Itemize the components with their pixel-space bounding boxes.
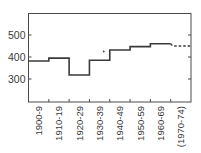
x-tick-label: 1910-19 (53, 106, 64, 141)
y-axis: 300400500 (8, 29, 191, 85)
x-tick-label: (1970-74) (175, 106, 186, 147)
projected-step-line (171, 44, 191, 46)
x-axis: 1900-91910-191920-291930-391940-491950-5… (33, 99, 186, 147)
x-tick-label: 1950-59 (135, 106, 146, 141)
data-point-marker (103, 51, 105, 53)
data-series (29, 44, 192, 75)
x-tick-label: 1920-29 (74, 106, 85, 141)
y-tick-label: 400 (8, 51, 26, 63)
step-chart: 300400500 1900-91910-191920-291930-39194… (0, 0, 201, 153)
x-tick-label: 1930-39 (94, 106, 105, 141)
y-tick-label: 500 (8, 29, 26, 41)
step-line (29, 44, 171, 75)
x-tick-label: 1940-49 (114, 106, 125, 141)
x-tick-label: 1960-69 (155, 106, 166, 141)
y-tick-label: 300 (8, 73, 26, 85)
x-tick-label: 1900-9 (33, 106, 44, 136)
